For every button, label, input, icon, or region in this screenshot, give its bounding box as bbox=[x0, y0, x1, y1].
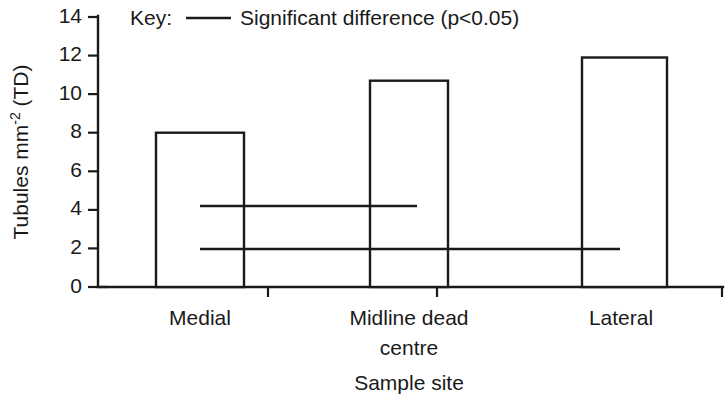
bars-group bbox=[156, 58, 667, 288]
y-tick-label-6: 6 bbox=[70, 158, 82, 181]
y-tick-label-12: 12 bbox=[59, 42, 82, 65]
bar-medial bbox=[156, 133, 244, 287]
y-tick-label-4: 4 bbox=[70, 196, 82, 219]
y-axis: 14 12 10 8 6 4 2 0 Tubules mm-2 (TD) bbox=[7, 4, 108, 297]
chart-canvas: 14 12 10 8 6 4 2 0 Tubules mm-2 (TD) bbox=[0, 0, 728, 408]
legend-entry-label: Significant difference (p<0.05) bbox=[240, 6, 519, 29]
x-tick-label-lateral: Lateral bbox=[589, 306, 653, 329]
bar-midline-dead-centre bbox=[370, 81, 448, 287]
x-axis-category-labels: Medial Midline dead centre Lateral bbox=[169, 306, 653, 359]
y-axis-title-tail: (TD) bbox=[9, 64, 32, 112]
bar-lateral bbox=[582, 58, 667, 288]
x-tick-label-midline-line1: Midline dead bbox=[349, 306, 468, 329]
bar-chart-figure: 14 12 10 8 6 4 2 0 Tubules mm-2 (TD) bbox=[0, 0, 728, 408]
x-axis-ticks bbox=[268, 287, 722, 297]
legend: Key: Significant difference (p<0.05) bbox=[130, 6, 519, 29]
y-tick-label-0: 0 bbox=[70, 274, 82, 297]
y-axis-title-group: Tubules mm-2 (TD) bbox=[7, 64, 32, 239]
y-axis-title-base: Tubules mm bbox=[9, 125, 32, 240]
y-axis-title: Tubules mm-2 (TD) bbox=[7, 64, 32, 239]
y-axis-tick-labels: 14 12 10 8 6 4 2 0 bbox=[59, 4, 83, 297]
y-tick-label-8: 8 bbox=[70, 119, 82, 142]
legend-key-label: Key: bbox=[130, 6, 172, 29]
y-tick-label-2: 2 bbox=[70, 235, 82, 258]
x-axis-title: Sample site bbox=[354, 371, 464, 394]
x-tick-label-medial: Medial bbox=[169, 306, 231, 329]
y-tick-label-10: 10 bbox=[59, 81, 82, 104]
y-tick-label-14: 14 bbox=[59, 4, 83, 27]
y-axis-title-superscript: -2 bbox=[7, 112, 23, 125]
x-tick-label-midline-line2: centre bbox=[380, 336, 438, 359]
x-axis: Medial Midline dead centre Lateral Sampl… bbox=[98, 287, 723, 394]
